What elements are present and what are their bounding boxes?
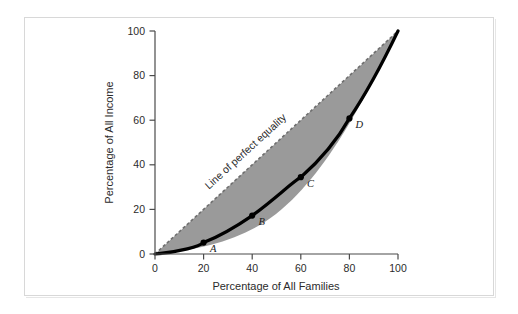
lorenz-curve-chart: 0 20 40 60 80 100 0 20 40 60 80 100 Perc… xyxy=(0,0,518,314)
data-point-label-b: B xyxy=(259,216,266,227)
data-point-d xyxy=(346,115,352,121)
data-point-c xyxy=(298,174,304,180)
x-tick-label-80: 80 xyxy=(344,262,356,274)
y-axis-title: Percentage of All Income xyxy=(103,81,115,203)
x-tick-label-100: 100 xyxy=(389,262,407,274)
x-tick-label-20: 20 xyxy=(198,262,210,274)
data-point-b xyxy=(249,213,255,219)
y-tick-label-20: 20 xyxy=(133,203,145,215)
x-axis-title: Percentage of All Families xyxy=(212,280,340,292)
y-tick-label-0: 0 xyxy=(139,248,145,260)
y-tick-label-60: 60 xyxy=(133,114,145,126)
data-point-label-a: A xyxy=(209,243,217,254)
data-point-a xyxy=(201,240,207,246)
data-point-label-c: C xyxy=(307,178,315,189)
x-tick-label-60: 60 xyxy=(295,262,307,274)
line-of-perfect-equality xyxy=(155,31,398,254)
y-tick-label-100: 100 xyxy=(127,25,145,37)
x-tick-label-40: 40 xyxy=(246,262,258,274)
x-tick-label-0: 0 xyxy=(152,262,158,274)
data-point-label-d: D xyxy=(355,119,364,130)
y-tick-label-40: 40 xyxy=(133,158,145,170)
lorenz-curve-figure: 0 20 40 60 80 100 0 20 40 60 80 100 Perc… xyxy=(0,0,518,314)
y-tick-label-80: 80 xyxy=(133,69,145,81)
